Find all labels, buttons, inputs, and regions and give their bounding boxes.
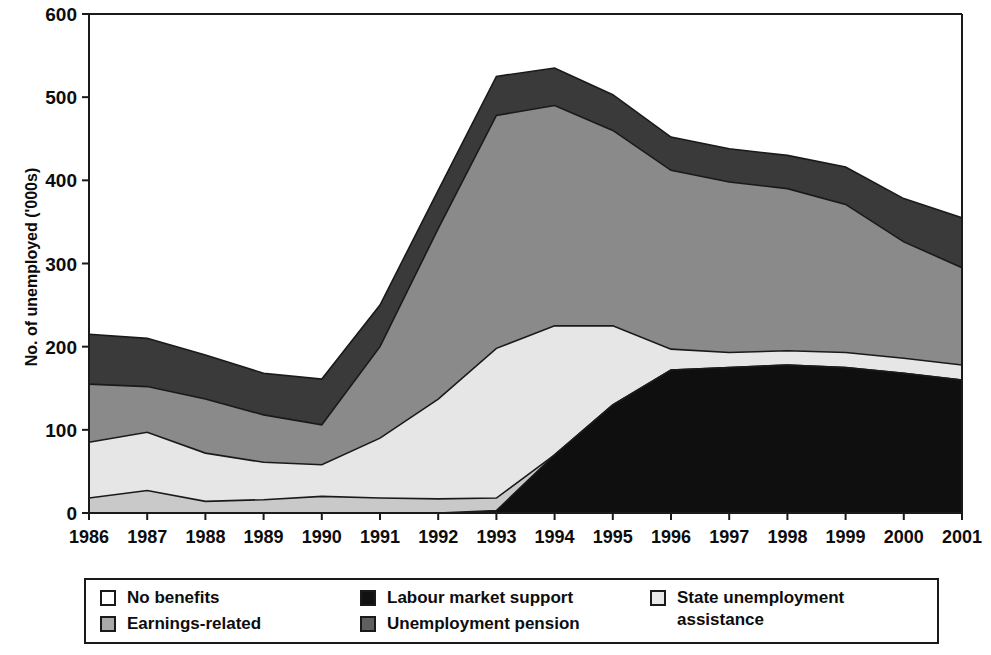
legend-label-labour-market-support: Labour market support: [387, 587, 573, 609]
y-tick-label: 0: [66, 503, 77, 524]
x-tick-label: 1994: [535, 527, 575, 547]
x-tick-label: 1996: [651, 527, 691, 547]
x-tick-label: 1998: [767, 527, 807, 547]
y-tick-label: 600: [45, 4, 77, 25]
legend-item-labour-market-support: Labour market support: [360, 587, 650, 609]
y-tick-label: 500: [45, 87, 77, 108]
x-tick-label: 1988: [185, 527, 225, 547]
y-tick-label: 100: [45, 420, 77, 441]
legend-item-no-benefits: No benefits: [100, 587, 360, 609]
legend-swatch-labour-market-support: [360, 590, 376, 606]
legend-swatch-earnings-related: [100, 616, 116, 632]
x-tick-label: 1995: [593, 527, 633, 547]
legend-label-no-benefits: No benefits: [127, 587, 220, 609]
legend-swatch-state-unemployment-assistance: [650, 590, 666, 606]
x-tick-label: 1991: [360, 527, 400, 547]
legend-item-earnings-related: Earnings-related: [100, 613, 360, 635]
plot-area: 6005004003002001000198619871988198919901…: [0, 0, 991, 560]
x-tick-label: 1993: [476, 527, 516, 547]
legend-swatch-unemployment-pension: [360, 616, 376, 632]
x-tick-label: 1987: [127, 527, 167, 547]
y-tick-label: 400: [45, 170, 77, 191]
x-tick-label: 1992: [418, 527, 458, 547]
legend-swatch-no-benefits: [100, 590, 116, 606]
legend-label-earnings-related: Earnings-related: [127, 613, 261, 635]
x-tick-label: 2000: [884, 527, 924, 547]
x-tick-label: 2001: [942, 527, 982, 547]
y-tick-label: 300: [45, 254, 77, 275]
legend-item-unemployment-pension: Unemployment pension: [360, 613, 650, 635]
x-tick-label: 1986: [69, 527, 109, 547]
y-tick-label: 200: [45, 337, 77, 358]
x-tick-label: 1990: [302, 527, 342, 547]
legend-item-state-unemployment-assistance: State unemployment assistance: [650, 587, 910, 631]
chart-legend: No benefits Earnings-related Labour mark…: [84, 578, 939, 644]
x-tick-label: 1999: [826, 527, 866, 547]
chart-figure: No. of unemployed ('000s) 60050040030020…: [0, 0, 991, 655]
stacked-area-chart: 6005004003002001000198619871988198919901…: [0, 0, 991, 560]
x-tick-label: 1997: [709, 527, 749, 547]
legend-label-unemployment-pension: Unemployment pension: [387, 613, 580, 635]
x-tick-label: 1989: [244, 527, 284, 547]
legend-label-state-unemployment-assistance: State unemployment assistance: [677, 587, 844, 631]
